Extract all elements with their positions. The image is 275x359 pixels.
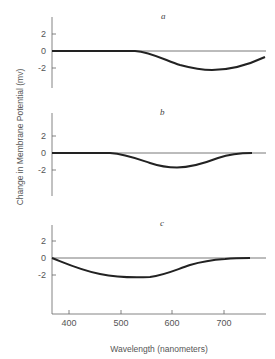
panel-b-label: b [160, 107, 165, 117]
panel-c-ytick-0: 0 [41, 253, 46, 263]
panel-c: c 2 0 -2 400 500 600 700 [38, 218, 266, 328]
panel-a-curve [52, 51, 265, 70]
panel-a-ytick-0: 0 [41, 46, 46, 56]
panel-a-label: a [161, 11, 166, 21]
panel-c-ytick-neg2: -2 [38, 270, 46, 280]
xtick-600: 600 [164, 318, 179, 328]
panel-b-ytick-2: 2 [41, 131, 46, 141]
panel-c-curve [52, 258, 250, 277]
y-axis-label: Change in Membrane Potential (mv) [15, 47, 25, 227]
xtick-700: 700 [216, 318, 231, 328]
panel-b-curve [52, 153, 252, 168]
xtick-400: 400 [61, 318, 76, 328]
panel-a: a 2 0 -2 [38, 11, 266, 88]
chart-figure: a 2 0 -2 b 2 0 -2 c 2 0 -2 [0, 0, 275, 359]
panel-b: b 2 0 -2 [38, 107, 266, 196]
panel-b-ytick-0: 0 [41, 148, 46, 158]
panel-a-ytick-2: 2 [41, 29, 46, 39]
x-axis-label: Wavelength (nanometers) [52, 344, 266, 354]
panel-c-label: c [160, 218, 164, 228]
xtick-500: 500 [113, 318, 128, 328]
panel-a-ytick-neg2: -2 [38, 63, 46, 73]
panel-b-ytick-neg2: -2 [38, 165, 46, 175]
panel-c-ytick-2: 2 [41, 236, 46, 246]
